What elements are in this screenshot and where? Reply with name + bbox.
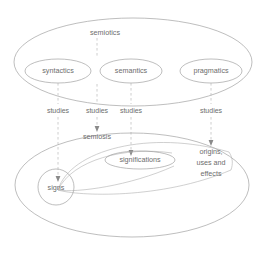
arrowhead-signs	[56, 176, 61, 182]
origins-label-line3: effects	[200, 169, 221, 178]
semantics-label: semantics	[115, 66, 148, 75]
figure-canvas: semiotics syntactics semantics pragmatic…	[0, 0, 264, 256]
semiosis-cone-right-cap	[229, 152, 232, 170]
signs-label: signs	[48, 183, 65, 192]
significations-cone-lower-edge	[58, 166, 174, 191]
pragmatics-label: pragmatics	[193, 66, 229, 75]
semiotics-label: semiotics	[90, 28, 120, 37]
studies-label-4: studies	[200, 107, 223, 114]
semiosis-label: semiosis	[83, 132, 111, 141]
origins-label-line1: origins,	[199, 147, 222, 156]
studies-label-1: studies	[47, 107, 70, 114]
syntactics-label: syntactics	[42, 66, 74, 75]
semiotics-container-ellipse	[14, 18, 252, 106]
studies-label-3: studies	[120, 107, 143, 114]
semiotics-diagram: semiotics syntactics semantics pragmatic…	[0, 0, 264, 256]
origins-label-line2: uses and	[196, 158, 225, 167]
studies-label-2: studies	[86, 107, 109, 114]
significations-label: significations	[119, 155, 161, 164]
arrowhead-origins	[209, 140, 214, 146]
